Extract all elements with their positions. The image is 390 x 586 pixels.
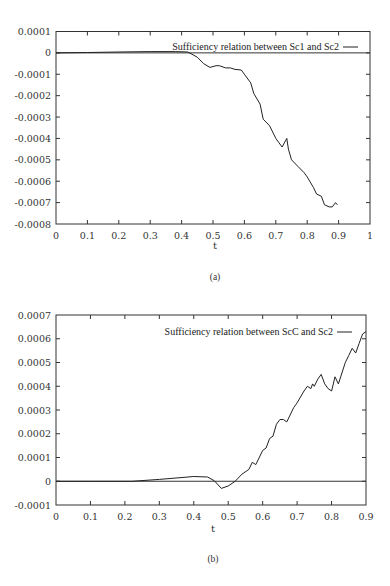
y-tick-label: 0.0005 — [18, 357, 51, 368]
data-series-line — [56, 52, 337, 207]
y-tick-label: 0 — [45, 47, 51, 58]
x-tick-label: 0.7 — [268, 230, 283, 241]
chart-b: 00.10.20.30.40.50.60.70.80.90.00070.0006… — [15, 310, 374, 566]
figure-caption: (a) — [210, 272, 221, 283]
y-tick-label: -0.0002 — [15, 90, 51, 101]
y-tick-label: -0.0005 — [15, 154, 51, 165]
y-tick-label: -0.0004 — [15, 133, 51, 144]
x-tick-label: 0 — [53, 230, 59, 241]
y-tick-label: 0.0001 — [18, 26, 51, 37]
x-tick-label: 0.9 — [358, 511, 373, 522]
x-tick-label: 0.3 — [143, 230, 158, 241]
y-tick-label: -0.0001 — [15, 69, 51, 80]
chart-a: 00.10.20.30.40.50.60.70.80.910.00010-0.0… — [15, 26, 373, 283]
figure-caption: (b) — [207, 554, 218, 565]
y-tick-label: -0.0001 — [15, 500, 51, 511]
y-tick-label: 0.0001 — [18, 452, 51, 463]
y-tick-label: -0.0006 — [15, 176, 51, 187]
plot-frame — [56, 315, 366, 505]
x-tick-label: 0.8 — [324, 511, 339, 522]
y-tick-label: -0.0003 — [15, 112, 51, 123]
y-tick-label: -0.0007 — [15, 197, 51, 208]
x-tick-label: 0.2 — [111, 230, 126, 241]
x-tick-label: 0.6 — [237, 230, 252, 241]
x-tick-label: 0.4 — [174, 230, 189, 241]
x-tick-label: 0.5 — [221, 511, 236, 522]
plot-frame — [56, 32, 370, 225]
data-series-line — [56, 332, 366, 489]
y-tick-label: 0.0003 — [18, 405, 51, 416]
legend-label: Sufficiency relation between ScC and Sc2 — [165, 326, 333, 337]
y-tick-label: -0.0008 — [15, 219, 51, 230]
x-tick-label: 0.1 — [80, 230, 95, 241]
x-tick-label: 0.4 — [186, 511, 201, 522]
figure: 00.10.20.30.40.50.60.70.80.910.00010-0.0… — [0, 0, 390, 586]
x-tick-label: 0.6 — [255, 511, 270, 522]
x-axis-label: t — [211, 523, 215, 534]
x-tick-label: 0.1 — [83, 511, 98, 522]
y-tick-label: 0 — [45, 476, 51, 487]
x-tick-label: 0.2 — [117, 511, 132, 522]
x-tick-label: 0.7 — [290, 511, 305, 522]
y-tick-label: 0.0006 — [18, 333, 51, 344]
y-tick-label: 0.0004 — [18, 381, 51, 392]
x-tick-label: 0 — [53, 511, 59, 522]
x-tick-label: 0.3 — [152, 511, 167, 522]
y-tick-label: 0.0007 — [18, 310, 51, 321]
x-axis-label: t — [213, 240, 217, 251]
x-tick-label: 1 — [367, 230, 373, 241]
y-tick-label: 0.0002 — [18, 428, 51, 439]
x-tick-label: 0.9 — [331, 230, 346, 241]
legend-label: Sufficiency relation between Sc1 and Sc2 — [172, 41, 339, 52]
x-tick-label: 0.8 — [300, 230, 315, 241]
